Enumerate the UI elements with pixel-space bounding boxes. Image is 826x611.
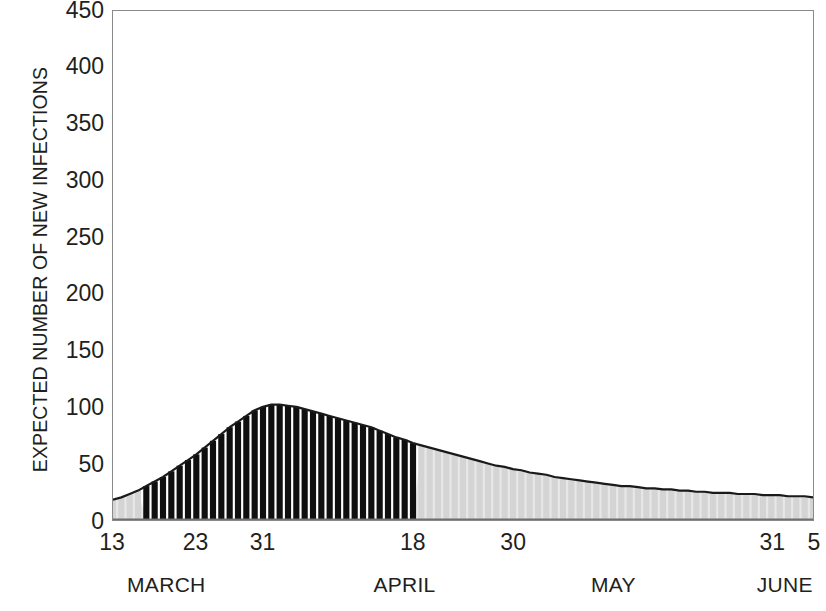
data-bar <box>568 479 574 520</box>
plot-area <box>112 10 814 521</box>
data-bar <box>393 437 399 520</box>
data-bar <box>593 483 599 520</box>
data-bar <box>227 427 233 520</box>
data-bar <box>452 454 458 520</box>
data-bar <box>802 496 808 520</box>
data-bar <box>168 471 174 520</box>
data-bar <box>352 423 358 520</box>
x-tick-label: 13 <box>99 528 125 556</box>
data-bar <box>627 486 633 520</box>
data-bar <box>193 454 199 520</box>
y-tick-label: 150 <box>0 339 104 362</box>
y-tick-label: 450 <box>0 0 104 22</box>
x-tick-label: 31 <box>759 528 785 556</box>
data-bar <box>743 494 749 520</box>
data-bar <box>218 434 224 520</box>
data-bar <box>385 434 391 520</box>
data-bar <box>502 467 508 520</box>
data-bar <box>718 493 724 520</box>
data-bar <box>143 486 149 520</box>
y-axis-tick-labels: 050100150200250300350400450 <box>0 0 104 530</box>
x-tick-label: 31 <box>250 528 276 556</box>
data-bar <box>235 422 241 520</box>
data-bar <box>668 489 674 520</box>
data-bar <box>443 452 449 520</box>
data-bar <box>468 459 474 520</box>
data-bar <box>735 494 741 520</box>
epidemic-curve-chart: EXPECTED NUMBER OF NEW INFECTIONS 050100… <box>0 0 826 611</box>
data-bar <box>368 427 374 520</box>
data-bar <box>260 407 266 520</box>
data-bar <box>360 425 366 520</box>
data-bar <box>277 405 283 520</box>
data-bar <box>560 478 566 520</box>
data-bar <box>268 405 274 520</box>
data-bar <box>493 466 499 520</box>
data-bar <box>477 461 483 520</box>
data-bar <box>418 445 424 520</box>
data-bar <box>485 463 491 520</box>
data-bar <box>310 411 316 520</box>
y-tick-label: 200 <box>0 282 104 305</box>
x-axis-day-labels: 1323311830315 <box>0 528 826 560</box>
x-month-label: MARCH <box>127 572 206 598</box>
data-bar <box>210 441 216 520</box>
data-bar <box>177 466 183 520</box>
data-bar <box>702 492 708 520</box>
y-tick-label: 50 <box>0 453 104 476</box>
data-bar <box>335 418 341 520</box>
data-bar <box>752 494 758 520</box>
data-bar <box>510 469 516 520</box>
data-bar <box>410 443 416 520</box>
x-tick-label: 30 <box>500 528 526 556</box>
data-bar <box>543 475 549 520</box>
x-month-label: JUNE <box>757 572 813 598</box>
data-bar <box>552 477 558 520</box>
x-month-label: APRIL <box>373 572 435 598</box>
data-bar <box>135 491 141 520</box>
data-bar <box>793 496 799 520</box>
y-tick-label: 100 <box>0 396 104 419</box>
x-tick-label: 23 <box>183 528 209 556</box>
data-bar <box>602 484 608 520</box>
data-bar <box>610 485 616 520</box>
data-bar <box>185 460 191 520</box>
data-bar <box>243 416 249 520</box>
x-month-label: MAY <box>591 572 636 598</box>
data-bar <box>618 486 624 520</box>
y-tick-label: 250 <box>0 226 104 249</box>
plot-canvas <box>113 11 813 520</box>
data-bar <box>727 493 733 520</box>
data-bar <box>343 420 349 520</box>
data-bar <box>677 491 683 520</box>
data-bar <box>377 431 383 520</box>
data-bar <box>427 448 433 520</box>
data-bar <box>660 489 666 520</box>
data-bar <box>810 497 813 520</box>
data-bar <box>252 410 258 520</box>
data-bar <box>152 482 158 520</box>
data-bar <box>293 407 299 520</box>
data-bar <box>518 470 524 520</box>
data-bar <box>127 494 133 520</box>
data-bar <box>710 493 716 520</box>
data-bar <box>785 496 791 520</box>
data-bar <box>652 488 658 520</box>
data-bar <box>585 482 591 520</box>
x-tick-label: 5 <box>808 528 821 556</box>
data-bar <box>160 477 166 520</box>
data-bar <box>327 416 333 520</box>
data-bar <box>527 472 533 520</box>
data-bar <box>318 414 324 520</box>
data-bar <box>777 495 783 520</box>
data-bar <box>435 450 441 520</box>
data-bar <box>202 448 208 520</box>
data-bar <box>760 495 766 520</box>
data-bar <box>643 488 649 520</box>
data-bar <box>768 495 774 520</box>
data-bar <box>402 440 408 520</box>
data-bar <box>693 492 699 520</box>
data-bar <box>577 480 583 520</box>
y-tick-label: 400 <box>0 55 104 78</box>
data-bar <box>302 409 308 520</box>
